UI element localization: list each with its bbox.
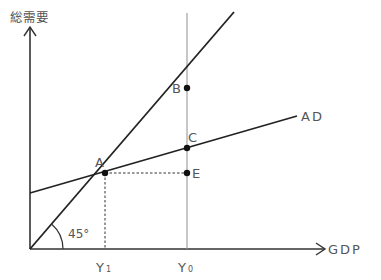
- point-c: [184, 145, 190, 151]
- point-c-label: C: [188, 130, 197, 145]
- ad-label: AD: [301, 109, 324, 124]
- ad-line: [30, 116, 297, 193]
- angle-label: 45°: [68, 227, 89, 241]
- keynesian-cross-diagram: 総需要 GDP AD 45° A B C E Y1 Y0: [0, 0, 381, 280]
- tick-y0: Y0: [177, 260, 193, 275]
- point-e: [184, 170, 190, 176]
- point-b: [184, 85, 190, 91]
- point-a-label: A: [95, 155, 104, 170]
- y-axis-label: 総需要: [10, 10, 49, 25]
- point-b-label: B: [172, 81, 181, 96]
- angle-arc: [52, 224, 64, 249]
- point-e-label: E: [192, 166, 200, 181]
- 45-degree-line: [30, 12, 234, 249]
- point-a: [102, 170, 108, 176]
- x-axis-label: GDP: [328, 242, 362, 257]
- tick-y1: Y1: [95, 260, 111, 275]
